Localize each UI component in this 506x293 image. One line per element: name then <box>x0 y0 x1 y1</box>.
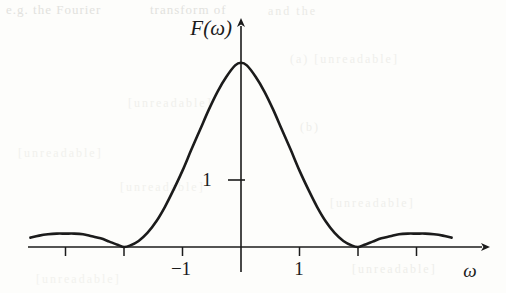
y-tick-label-1: 1 <box>202 169 212 190</box>
figure-container: e.g. the Fourier transform of and the (a… <box>0 0 506 293</box>
y-axis-label: F(ω) <box>189 16 232 40</box>
x-axis-label: ω <box>463 260 476 281</box>
x-tick-label-neg1: −1 <box>171 258 191 279</box>
plot-svg: F(ω) ω 1 −1 1 <box>0 0 506 293</box>
x-tick-label-1: 1 <box>294 258 304 279</box>
